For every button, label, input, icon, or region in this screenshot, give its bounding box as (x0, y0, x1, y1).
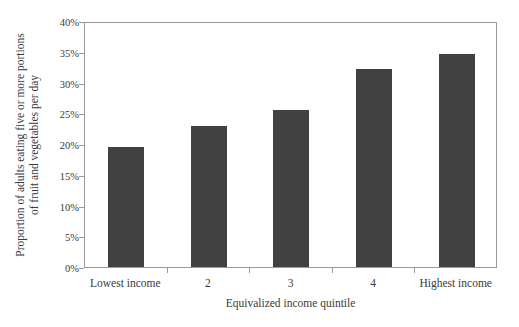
x-axis-tick-labels: Lowest income234Highest income (84, 276, 497, 292)
bar[interactable] (273, 110, 309, 267)
y-axis-title-line-1: Proportion of adults eating five or more… (13, 33, 27, 256)
y-axis-tick-label: 0% (46, 263, 79, 274)
x-axis-tick-mark (332, 268, 333, 273)
y-axis-tick-label: 15% (46, 170, 79, 181)
y-axis-tick-label: 10% (46, 201, 79, 212)
x-axis-tick-label: Highest income (419, 276, 492, 290)
y-axis-tick-label: 40% (46, 17, 79, 28)
x-axis-tick-label: Lowest income (90, 276, 161, 290)
bar-series (85, 23, 496, 267)
x-axis-tick-mark (414, 268, 415, 273)
bar[interactable] (439, 54, 475, 267)
y-axis-tick-mark (79, 268, 84, 269)
bar-slot (415, 23, 498, 267)
y-axis-tick-labels: 0%5%10%15%20%25%30%35%40% (46, 22, 79, 268)
bar-slot (250, 23, 333, 267)
y-axis-title-text: Proportion of adults eating five or more… (13, 33, 41, 256)
bar[interactable] (191, 126, 227, 267)
bar-slot (333, 23, 416, 267)
x-axis-tick-label: 4 (370, 276, 376, 290)
x-axis-tick-mark (167, 268, 168, 273)
x-axis-tick-label: 2 (205, 276, 211, 290)
y-axis-tick-label: 25% (46, 109, 79, 120)
bar-slot (168, 23, 251, 267)
y-axis-tick-label: 5% (46, 232, 79, 243)
y-axis-tick-label: 35% (46, 47, 79, 58)
y-axis-tick-label: 30% (46, 78, 79, 89)
bar[interactable] (108, 147, 144, 267)
bar-chart-figure: Proportion of adults eating five or more… (0, 0, 519, 327)
bar[interactable] (356, 69, 392, 267)
plot-area (84, 22, 497, 268)
y-axis-title-line-2: of fruit and vegetables per day (27, 33, 41, 256)
x-axis-tick-mark (249, 268, 250, 273)
y-axis-tick-label: 20% (46, 140, 79, 151)
bar-slot (85, 23, 168, 267)
x-axis-title: Equivalized income quintile (84, 296, 497, 310)
x-axis-tick-label: 3 (288, 276, 294, 290)
